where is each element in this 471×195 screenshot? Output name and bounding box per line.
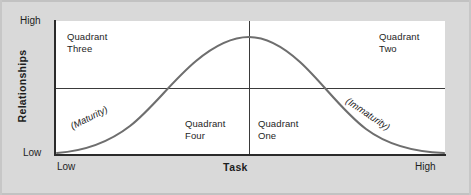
y-axis-low-tick-label: Low [23, 147, 41, 158]
quadrant-divider-horizontal [56, 88, 445, 89]
situational-leadership-diagram: Quadrant Three Quadrant Two Quadrant Fou… [0, 0, 471, 195]
quadrant-three-label: Quadrant Three [67, 31, 107, 54]
y-axis-high-tick-label: High [20, 15, 41, 26]
figure-border-bottom [0, 193, 471, 195]
quadrant-one-label: Quadrant One [258, 118, 298, 141]
y-axis-title: Relationships [16, 31, 28, 141]
x-axis-title: Task [0, 161, 471, 173]
quadrant-four-label: Quadrant Four [185, 118, 225, 141]
x-axis-line [54, 154, 446, 156]
quadrant-two-label: Quadrant Two [379, 31, 419, 54]
figure-border-top [0, 0, 471, 2]
y-axis-line [54, 20, 56, 156]
quadrant-divider-vertical [249, 21, 250, 155]
